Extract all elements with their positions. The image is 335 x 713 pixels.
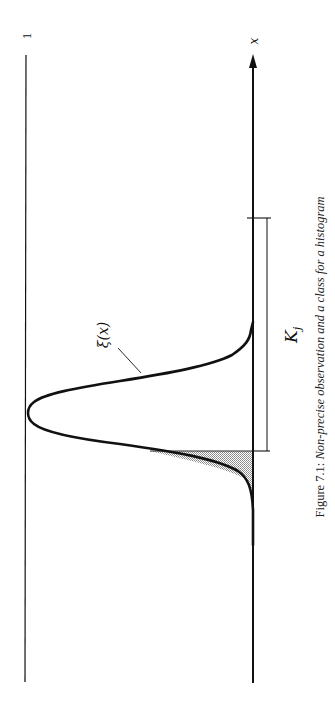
figure-canvas: 1 x ξ(x) Kj: [0, 0, 335, 713]
x-axis-arrow-icon: [249, 54, 257, 68]
curve-label: ξ(x): [95, 322, 111, 349]
figure-caption: Figure 7.1: Non-precise observation and …: [313, 196, 328, 517]
caption-text: Non-precise observation and a class for …: [313, 196, 327, 459]
reference-line-label: 1: [19, 33, 34, 40]
reference-line-one: [25, 55, 26, 682]
interval-label: Kj: [281, 326, 304, 344]
curve-label-leader: [118, 348, 141, 373]
caption-prefix: Figure 7.1:: [313, 463, 327, 518]
characterizing-function-curve: [28, 322, 253, 545]
x-axis-label: x: [247, 37, 261, 44]
svg-text:Kj: Kj: [281, 326, 304, 344]
